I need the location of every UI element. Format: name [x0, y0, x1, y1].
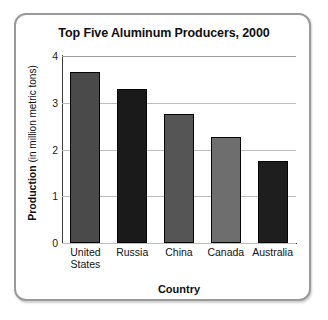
bar-canada[interactable]	[211, 137, 241, 243]
bar-china[interactable]	[164, 114, 194, 243]
x-axis-title: Country	[62, 283, 296, 295]
y-tick-label-1: 1	[38, 191, 58, 202]
y-tick-label-2: 2	[38, 145, 58, 156]
x-axis-tick-labels: UnitedStatesRussiaChinaCanadaAustralia	[62, 246, 296, 282]
bar-australia[interactable]	[258, 161, 288, 243]
x-tick-label-russia: Russia	[109, 246, 156, 258]
y-axis-title-strong: Production	[26, 165, 38, 220]
y-tick-label-0: 0	[38, 238, 58, 249]
y-tick-label-3: 3	[38, 98, 58, 109]
figure-container: Top Five Aluminum Producers, 2000 43210 …	[0, 0, 328, 320]
x-tick-label-united-states: UnitedStates	[62, 246, 109, 270]
plot-area	[62, 56, 296, 243]
chart-title: Top Five Aluminum Producers, 2000	[30, 26, 298, 40]
x-tick-label-china: China	[156, 246, 203, 258]
gridline-0	[62, 243, 296, 244]
gridline-4	[62, 56, 296, 57]
y-axis-title-rest: (in million metric tons)	[27, 65, 38, 165]
y-tick-label-4: 4	[38, 51, 58, 62]
x-tick-label-canada: Canada	[202, 246, 249, 258]
y-axis-tick-labels: 43210	[36, 56, 58, 243]
x-tick-label-australia: Australia	[249, 246, 296, 258]
bar-russia[interactable]	[117, 89, 147, 243]
bar-united-states[interactable]	[70, 72, 100, 243]
y-axis-title: Production (in million metric tons)	[26, 48, 38, 238]
